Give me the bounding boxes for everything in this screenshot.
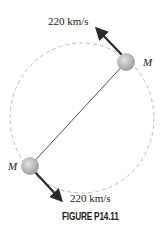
velocity-arrow-bottom (35, 172, 60, 199)
mass-label-top: M (142, 56, 153, 68)
mass-top (117, 53, 135, 71)
velocity-label-bottom: 220 km/s (70, 192, 111, 204)
velocity-label-top: 220 km/s (48, 15, 89, 27)
figure-caption: FIGURE P14.11 (62, 211, 119, 222)
mass-bottom (21, 157, 39, 175)
separation-line (30, 62, 126, 166)
mass-label-bottom: M (7, 160, 18, 172)
velocity-arrow-top (98, 30, 122, 55)
binary-star-diagram: 220 km/s 220 km/s M M (0, 0, 164, 231)
